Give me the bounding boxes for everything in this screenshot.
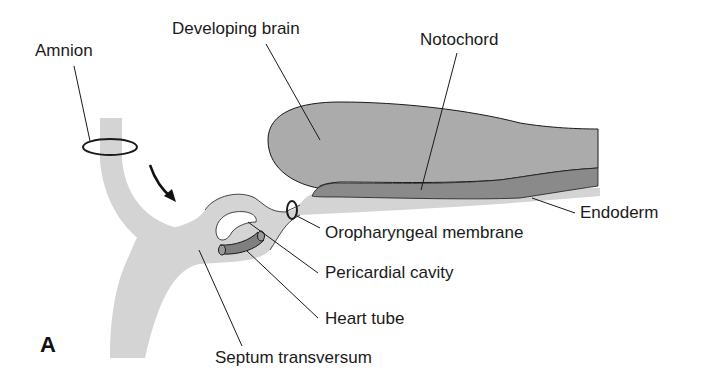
label-notochord: Notochord [420, 31, 498, 48]
label-endoderm: Endoderm [580, 204, 658, 221]
heart-tube-end-left [219, 245, 226, 255]
label-oropharyngeal-membrane: Oropharyngeal membrane [325, 224, 523, 241]
label-heart-tube: Heart tube [325, 310, 404, 327]
panel-letter: A [40, 334, 56, 356]
heart-tube-end-right [258, 231, 265, 241]
label-developing-brain: Developing brain [172, 20, 300, 37]
label-amnion: Amnion [35, 42, 93, 59]
label-pericardial-cavity: Pericardial cavity [325, 264, 454, 281]
label-septum-transversum: Septum transversum [215, 349, 372, 366]
